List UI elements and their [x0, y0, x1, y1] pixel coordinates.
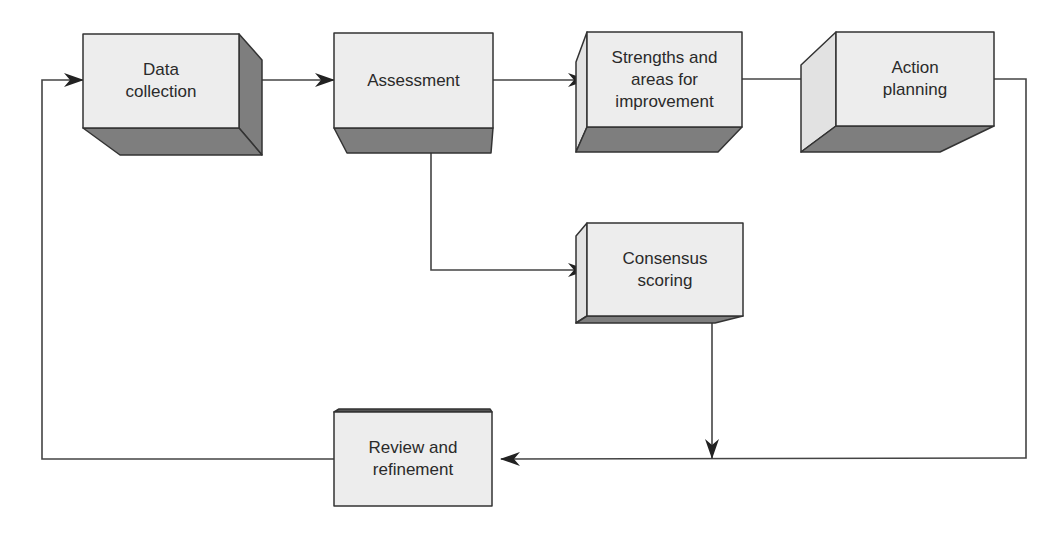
node-label-consensus-scoring: Consensus scoring: [587, 223, 743, 316]
node-shade-bottom: [83, 128, 262, 155]
node-shade-bottom: [334, 128, 493, 153]
node-label-action-planning: Action planning: [836, 32, 994, 126]
node-shade-bottom: [801, 126, 994, 152]
node-shade-bottom: [576, 127, 742, 152]
edge-assessment-to-consensus: [431, 153, 587, 270]
node-label-strengths: Strengths and areas for improvement: [587, 32, 742, 127]
node-side-left: [576, 223, 587, 323]
node-shade-bottom: [576, 316, 743, 323]
node-label-review-refinement: Review and refinement: [334, 412, 492, 506]
node-label-assessment: Assessment: [334, 33, 493, 128]
node-label-data-collection: Data collection: [83, 34, 239, 128]
